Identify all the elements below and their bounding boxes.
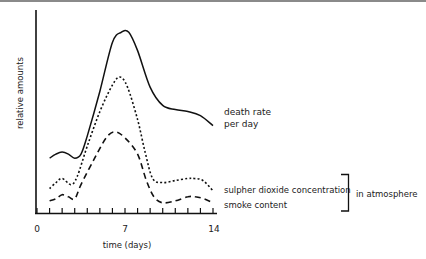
y-axis-label: relative amounts — [15, 56, 25, 129]
x-axis-label: time (days) — [103, 240, 152, 250]
x-tick-label-0: 0 — [34, 224, 40, 234]
death-rate-line — [50, 31, 213, 159]
death-rate-label-line2: per day — [224, 119, 259, 129]
sulpher-dioxide-label: sulpher dioxide concentration — [224, 185, 351, 195]
chart: 0 7 14 time (days) relative amounts deat… — [0, 0, 426, 259]
x-tick-label-7: 7 — [122, 224, 128, 234]
x-ticks — [37, 208, 213, 213]
smoke-content-line — [50, 132, 213, 203]
smoke-content-label: smoke content — [224, 200, 288, 210]
sulpher-dioxide-line — [50, 77, 213, 191]
x-tick-label-14: 14 — [208, 224, 220, 234]
death-rate-label-line1: death rate — [224, 107, 272, 117]
in-atmosphere-label: in atmosphere — [356, 189, 417, 199]
